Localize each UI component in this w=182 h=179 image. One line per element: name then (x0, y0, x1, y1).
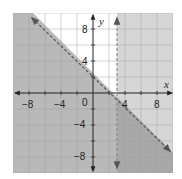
x-tick-label-4: 4 (122, 99, 128, 110)
y-tick-label-4: 4 (82, 56, 88, 67)
x-tick-label-8: 8 (154, 99, 160, 110)
inequality-graph: y x −8 −4 0 4 8 8 4 −4 −8 (0, 0, 182, 179)
y-tick-label-neg8: −8 (74, 151, 86, 162)
y-tick-label-neg4: −4 (74, 119, 86, 130)
y-axis-label: y (98, 15, 104, 27)
x-tick-label-neg8: −8 (22, 99, 34, 110)
x-axis-label: x (163, 78, 169, 90)
y-tick-label-8: 8 (82, 24, 88, 35)
x-tick-label-neg4: −4 (54, 99, 66, 110)
origin-label: 0 (82, 97, 88, 108)
